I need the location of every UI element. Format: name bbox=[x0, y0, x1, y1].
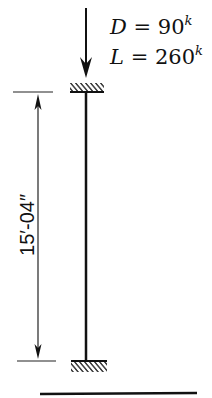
live-load-label: L = 260k bbox=[110, 44, 203, 68]
ground-line bbox=[40, 393, 197, 394]
dead-load-value: 90 bbox=[158, 15, 185, 39]
dead-load-unit: k bbox=[185, 13, 193, 28]
live-load-unit: k bbox=[195, 43, 203, 58]
equals-sign: = bbox=[131, 45, 149, 69]
top-fixed-support-icon bbox=[70, 83, 104, 92]
dead-load-label: D = 90k bbox=[110, 14, 192, 38]
load-arrow-icon bbox=[80, 8, 92, 78]
bottom-fixed-support-icon bbox=[71, 361, 107, 372]
live-load-value: 260 bbox=[155, 45, 195, 69]
dead-load-symbol: D bbox=[110, 15, 127, 39]
column-height-dimension: 15′-04″ bbox=[17, 194, 37, 256]
column-diagram: D = 90k L = 260k 15′-04″ bbox=[0, 0, 212, 398]
equals-sign: = bbox=[134, 15, 152, 39]
live-load-symbol: L bbox=[110, 45, 124, 69]
